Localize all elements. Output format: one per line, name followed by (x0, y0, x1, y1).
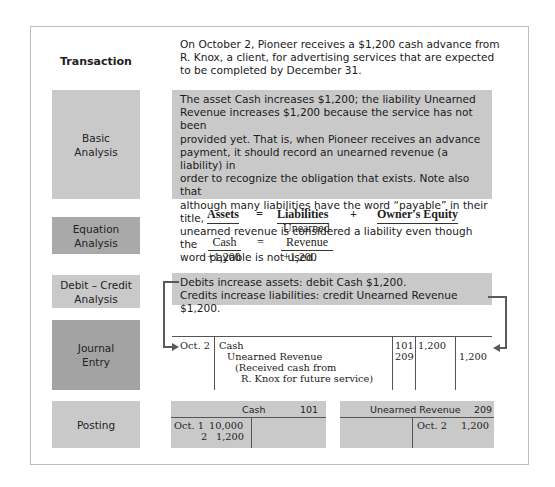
asset-change: +1,200 (207, 250, 241, 265)
t-account-name: Unearned Revenue (370, 404, 461, 415)
t-account-number: 101 (300, 404, 318, 415)
owners-equity-header: Owner's Equity (377, 207, 458, 224)
posting-amount: 10,000 (209, 420, 243, 431)
transaction-line: On October 2, Pioneer receives a $1,200 … (180, 38, 500, 51)
equation-analysis-label: Equation Analysis (52, 217, 140, 254)
label-line: Analysis (60, 292, 132, 306)
asset-account: Cash (208, 235, 241, 251)
basic-analysis-line: order to recognize the obligation that e… (180, 172, 492, 198)
posting-date: Oct. 1 (174, 420, 204, 431)
journal-entry-label: Journal Entry (52, 320, 140, 390)
posting-amount: 1,200 (216, 431, 244, 442)
debit-credit-text: Debits increase assets: debit Cash $1,20… (172, 273, 492, 305)
liability-change: +1,200 (283, 250, 317, 265)
journal-credit-account: Unearned Revenue (227, 351, 322, 362)
journal-credit-amount: 1,200 (459, 351, 487, 362)
label-line: Analysis (74, 145, 117, 159)
journal-explanation: (Received cash from (235, 362, 336, 373)
posting-date: Oct. 2 (417, 420, 447, 431)
label-line: Journal (78, 341, 114, 355)
journal-ref: 209 (395, 351, 414, 362)
equals-sign-2: = (257, 235, 264, 250)
journal-explanation: R. Knox for future service) (241, 373, 373, 384)
liability-account-line2: Revenue (281, 235, 333, 251)
t-account-name: Cash (242, 404, 265, 415)
transaction-label: Transaction (52, 44, 140, 80)
liability-account-line1: Unearned (283, 221, 330, 236)
label-line: Equation (73, 222, 120, 236)
posting-amount: 1,200 (461, 420, 489, 431)
basic-analysis-text: The asset Cash increases $1,200; the lia… (172, 90, 492, 199)
transaction-line: R. Knox, a client, for advertising servi… (180, 51, 500, 64)
arrow-right-icon (172, 343, 179, 351)
basic-analysis-line: The asset Cash increases $1,200; the lia… (180, 93, 492, 106)
label-line: Analysis (73, 236, 120, 250)
basic-analysis-line: provided yet. That is, when Pioneer rece… (180, 133, 492, 146)
t-account-cash: Cash 101 Oct. 1 10,000 2 1,200 (171, 401, 326, 448)
posting-label-text: Posting (77, 418, 115, 432)
equals-sign: = (256, 207, 263, 222)
t-account-unearned-revenue: Unearned Revenue 209 Oct. 2 1,200 (340, 401, 494, 448)
transaction-label-text: Transaction (60, 55, 132, 69)
debit-rule-line: Debits increase assets: debit Cash $1,20… (180, 276, 492, 289)
arrow-left-icon (493, 344, 500, 352)
debit-credit-analysis-label: Debit – Credit Analysis (52, 275, 140, 308)
label-line: Debit – Credit (60, 278, 132, 292)
journal-date: Oct. 2 (180, 340, 210, 351)
posting-label: Posting (52, 401, 140, 448)
basic-analysis-label: Basic Analysis (52, 90, 140, 199)
basic-analysis-line: Revenue increases $1,200 because the ser… (180, 106, 492, 132)
basic-analysis-line: payment, it should record an unearned re… (180, 146, 492, 172)
t-account-number: 209 (474, 404, 492, 415)
journal-debit-account: Cash (219, 340, 244, 351)
plus-sign: + (350, 207, 357, 222)
transaction-line: to be completed by December 31. (180, 64, 500, 77)
journal-ref: 101 (395, 340, 414, 351)
label-line: Basic (74, 131, 117, 145)
assets-header: Assets (207, 207, 239, 224)
journal-debit-amount: 1,200 (418, 340, 446, 351)
label-line: Entry (78, 355, 114, 369)
credit-rule-line: Credits increase liabilities: credit Une… (180, 289, 492, 315)
posting-date: 2 (201, 431, 207, 442)
transaction-text: On October 2, Pioneer receives a $1,200 … (180, 38, 500, 78)
